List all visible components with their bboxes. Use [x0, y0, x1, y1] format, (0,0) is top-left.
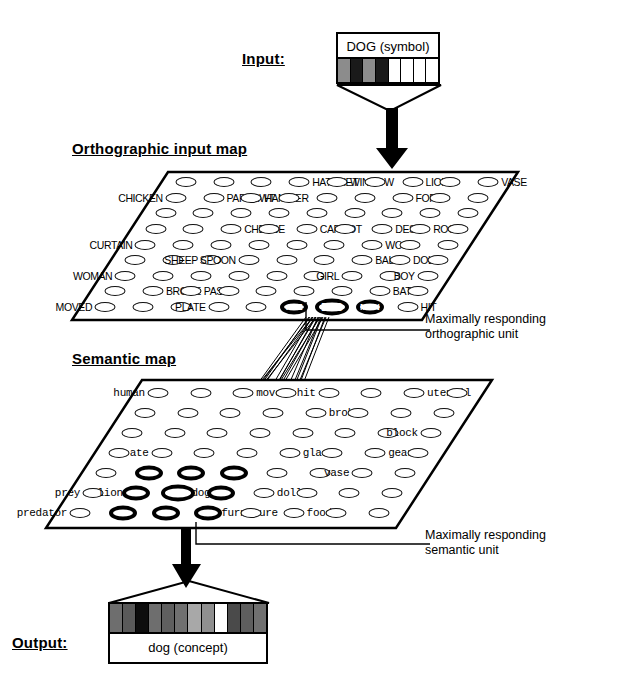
semantic-unit — [164, 428, 185, 438]
orthographic-unit-label: WOMAN — [73, 270, 112, 282]
orthographic-unit-label: VASE — [501, 176, 527, 188]
orthographic-unit — [241, 193, 262, 203]
orthographic-unit-label: GIRL — [316, 270, 339, 282]
output-activation-cell — [149, 604, 162, 632]
orthographic-unit-label: SPOON — [200, 254, 236, 266]
orthographic-unit — [440, 177, 461, 187]
annotation-semantic-line1: Maximally responding — [425, 528, 546, 543]
semantic-unit — [407, 448, 428, 458]
orthographic-unit — [306, 208, 327, 218]
semantic-unit — [240, 508, 261, 518]
arrow-input-to-ortho — [375, 108, 409, 170]
orthographic-unit — [105, 286, 126, 296]
orthographic-unit-label: CHICKEN — [118, 192, 162, 204]
orthographic-unit — [228, 271, 249, 281]
semantic-unit — [279, 448, 300, 458]
orthographic-unit — [427, 255, 448, 265]
leader-line-semantic — [192, 520, 432, 556]
orthographic-unit — [145, 224, 166, 234]
semantic-unit — [391, 408, 412, 418]
input-symbol-caption: DOG (symbol) — [338, 34, 438, 59]
orthographic-unit — [289, 177, 310, 187]
orthographic-unit — [175, 177, 196, 187]
semantic-unit — [404, 388, 425, 398]
orthographic-unit — [326, 177, 347, 187]
output-activation-cell — [110, 604, 123, 632]
orthographic-map-title: Orthographic input map — [72, 140, 247, 157]
orthographic-unit — [213, 177, 234, 187]
semantic-unit — [446, 388, 467, 398]
orthographic-unit — [314, 255, 335, 265]
orthographic-unit — [352, 255, 373, 265]
semantic-highlighted-unit — [109, 506, 137, 521]
orthographic-unit — [296, 224, 317, 234]
orthographic-unit — [143, 286, 164, 296]
semantic-unit-label: ate — [130, 447, 149, 459]
orthographic-unit — [155, 208, 176, 218]
orthographic-unit — [183, 224, 204, 234]
orthographic-unit — [258, 224, 279, 234]
orthographic-unit — [180, 286, 201, 296]
orthographic-unit — [221, 224, 242, 234]
orthographic-unit — [294, 286, 315, 296]
semantic-unit-label: block — [386, 427, 418, 439]
semantic-unit — [394, 468, 415, 478]
input-activation-cell — [401, 59, 414, 82]
output-activation-cell — [175, 604, 188, 632]
orthographic-unit-label: SHEEP — [164, 254, 198, 266]
orthographic-unit — [402, 177, 423, 187]
orthographic-unit — [372, 224, 393, 234]
semantic-unit — [369, 508, 390, 518]
output-label: Output: — [12, 634, 68, 651]
orthographic-unit — [135, 240, 156, 250]
orthographic-unit — [468, 193, 489, 203]
semantic-unit — [220, 408, 241, 418]
orthographic-unit — [410, 224, 431, 234]
input-activation-cell — [426, 59, 438, 82]
orthographic-unit — [211, 240, 232, 250]
semantic-unit — [348, 408, 369, 418]
semantic-unit — [177, 408, 198, 418]
semantic-highlighted-unit — [220, 466, 248, 481]
semantic-unit-label: hit — [297, 387, 316, 399]
semantic-unit-label: vase — [324, 467, 349, 479]
output-concept-box: dog (concept) — [108, 602, 268, 664]
semantic-unit — [420, 428, 441, 438]
orthographic-unit — [354, 193, 375, 203]
semantic-unit — [151, 448, 172, 458]
semantic-unit — [292, 428, 313, 438]
output-activation-cell — [162, 604, 175, 632]
input-activation-cell — [363, 59, 376, 82]
orthographic-unit — [269, 208, 290, 218]
orthographic-unit — [369, 286, 390, 296]
semantic-unit — [108, 448, 129, 458]
semantic-map-plane: humanmovedhitutensilbrokeblockateglassge… — [34, 376, 504, 536]
orthographic-unit — [208, 302, 229, 312]
orthographic-unit — [417, 271, 438, 281]
orthographic-unit — [218, 286, 239, 296]
semantic-unit — [263, 408, 284, 418]
orthographic-unit — [430, 193, 451, 203]
semantic-unit — [70, 508, 91, 518]
input-symbol-box: DOG (symbol) — [336, 32, 440, 84]
semantic-unit — [190, 388, 211, 398]
semantic-highlighted-unit — [177, 466, 205, 481]
orthographic-unit — [392, 193, 413, 203]
annotation-orthographic-line1: Maximally responding — [425, 312, 546, 327]
orthographic-unit — [248, 240, 269, 250]
output-activation-cell — [241, 604, 254, 632]
orthographic-unit — [165, 193, 186, 203]
output-activation-cell — [202, 604, 215, 632]
orthographic-unit — [256, 286, 277, 296]
semantic-unit — [253, 488, 274, 498]
annotation-orthographic-line2: orthographic unit — [425, 327, 546, 342]
diagram-canvas: Input: DOG (symbol) Orthographic input m… — [0, 0, 632, 697]
semantic-unit — [266, 468, 287, 478]
input-activation-cell — [376, 59, 389, 82]
orthographic-unit — [316, 193, 337, 203]
orthographic-highlighted-label: ATE — [286, 302, 302, 312]
orthographic-unit — [324, 240, 345, 250]
semantic-highlighted-unit — [122, 486, 150, 501]
semantic-unit — [305, 408, 326, 418]
semantic-unit — [283, 508, 304, 518]
